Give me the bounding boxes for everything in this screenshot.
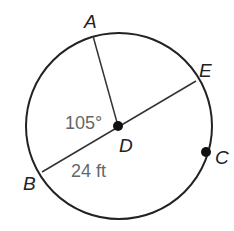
label-a: A [83, 11, 97, 32]
length-label: 24 ft [71, 161, 106, 181]
point-c [201, 147, 211, 157]
label-b: B [23, 173, 36, 194]
label-e: E [199, 60, 212, 81]
circle-diagram: A E D C B 105° 24 ft [0, 0, 234, 231]
center-point-d [113, 121, 123, 131]
angle-label: 105° [65, 113, 102, 133]
label-c: C [215, 147, 229, 168]
label-d: D [119, 135, 133, 156]
